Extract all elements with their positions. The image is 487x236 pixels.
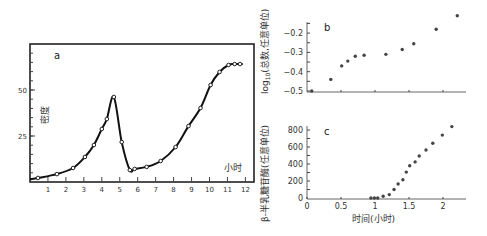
panel-b-points [310, 14, 459, 93]
data-point [456, 14, 459, 17]
data-point [329, 78, 332, 81]
panel-c: 00.511.52 8006004002000 c β-半乳糖苷酶(任意单位) … [259, 125, 466, 224]
data-point [159, 159, 163, 163]
data-point [92, 143, 96, 147]
data-point [376, 196, 379, 199]
panel-b-y-ticks: −0.2−0.3−0.4−0.5 [284, 23, 310, 96]
data-point [233, 62, 237, 66]
y-tick-label: −0.4 [284, 68, 303, 77]
data-point [450, 125, 453, 128]
panel-a-density-curve [30, 64, 243, 179]
data-point [401, 178, 404, 181]
panel-a-frame [30, 44, 254, 182]
data-point [418, 154, 421, 157]
data-point [384, 53, 387, 56]
data-point [36, 176, 40, 180]
data-point [346, 59, 349, 62]
x-tick-label: 0 [304, 202, 309, 211]
y-tick-label: −0.3 [284, 48, 303, 57]
y-tick-label: 600 [288, 143, 303, 152]
x-tick-label: 2 [64, 186, 68, 194]
data-point [209, 83, 213, 87]
data-point [71, 166, 75, 170]
data-point [413, 160, 416, 163]
y-tick-label: 400 [288, 160, 303, 169]
x-tick-label: 2 [440, 202, 445, 211]
data-point [405, 170, 408, 173]
data-point [218, 70, 222, 74]
y-tick-label: 25 [18, 133, 27, 141]
data-point [340, 64, 343, 67]
data-point [441, 133, 444, 136]
x-tick-label: 7 [153, 186, 157, 194]
x-tick-label: 0.5 [335, 202, 348, 211]
y-tick-label: 800 [288, 126, 303, 135]
panel-a-xlabel: 小时 [224, 162, 242, 173]
data-point [412, 42, 415, 45]
x-tick-label: 4 [100, 186, 105, 194]
figure: 123456789101112 5025 a 密度 小时 −0.2−0.3−0.… [0, 0, 487, 236]
data-point [227, 63, 231, 67]
x-tick-label: 3 [82, 186, 86, 194]
y-tick-label: −0.2 [284, 29, 303, 38]
y-tick-label: 0 [298, 194, 303, 203]
data-point [105, 117, 109, 121]
data-point [187, 124, 191, 128]
x-tick-label: 11 [223, 186, 232, 194]
data-point [174, 145, 178, 149]
data-point [408, 164, 411, 167]
data-point [199, 106, 203, 110]
data-point [238, 62, 242, 66]
x-tick-label: 12 [241, 186, 250, 194]
data-point [354, 55, 357, 58]
x-tick-label: 1 [46, 186, 50, 194]
data-point [133, 167, 137, 171]
x-tick-label: 1.5 [403, 202, 416, 211]
panel-c-xlabel: 时间(小时) [352, 213, 395, 224]
data-point [392, 188, 395, 191]
data-point [381, 195, 384, 198]
panel-a-ylabel: 密度 [39, 106, 50, 124]
data-point [362, 54, 365, 57]
y-tick-label: −0.5 [284, 87, 303, 96]
data-point [369, 196, 372, 199]
panel-b: −0.2−0.3−0.4−0.5 b log10(总数,任意单位) [259, 9, 466, 96]
data-point [120, 140, 124, 144]
data-point [373, 196, 376, 199]
panel-b-label: b [324, 22, 330, 33]
panel-c-ylabel: β-半乳糖苷酶(任意单位) [259, 125, 270, 222]
x-tick-label: 1 [372, 202, 377, 211]
data-point [145, 165, 149, 169]
data-point [401, 48, 404, 51]
data-point [83, 155, 87, 159]
data-point [112, 95, 116, 99]
panel-a-label: a [54, 50, 60, 61]
panel-b-ylabel: log10(总数,任意单位) [259, 9, 271, 94]
data-point [424, 148, 427, 151]
panel-a-x-ticks: 123456789101112 [46, 177, 250, 194]
x-tick-label: 5 [118, 186, 122, 194]
data-point [388, 193, 391, 196]
data-point [310, 89, 313, 92]
data-point [435, 28, 438, 31]
data-point [100, 127, 104, 131]
data-point [55, 172, 59, 176]
x-tick-label: 6 [135, 186, 140, 194]
data-point [396, 182, 399, 185]
panel-a-markers [36, 62, 242, 179]
panel-c-points [369, 125, 453, 200]
panel-c-label: c [324, 126, 330, 137]
y-tick-label: 200 [288, 177, 303, 186]
x-tick-label: 9 [189, 186, 193, 194]
x-tick-label: 8 [171, 186, 175, 194]
panel-a-y-ticks: 5025 [18, 53, 35, 173]
data-point [128, 168, 132, 172]
x-tick-label: 10 [205, 186, 214, 194]
y-tick-label: 50 [18, 87, 27, 95]
panel-a: 123456789101112 5025 a 密度 小时 [18, 44, 254, 194]
data-point [431, 141, 434, 144]
